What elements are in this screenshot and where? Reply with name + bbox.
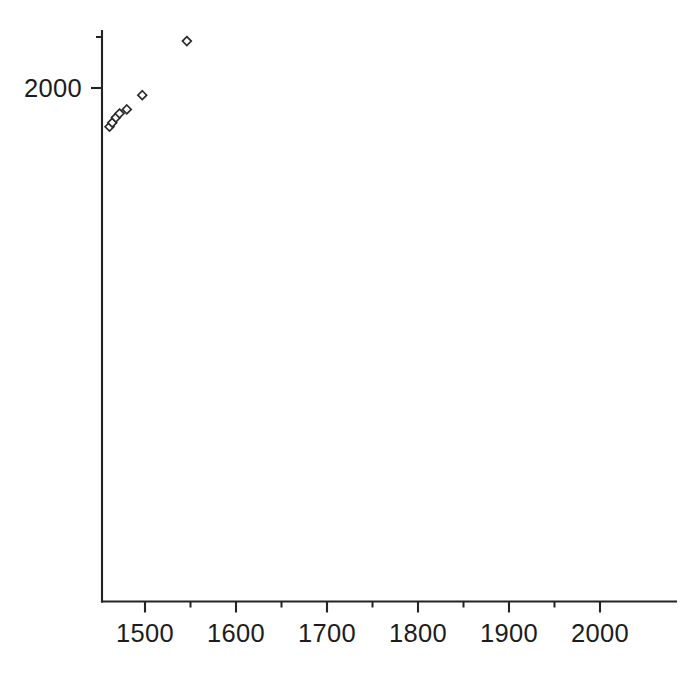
x-tick-label: 1800 (389, 619, 447, 647)
scatter-plot-figure: 150016001700180019002000 150016001700180… (0, 0, 685, 681)
x-tick-label: 1900 (480, 619, 538, 647)
y-tick-label: 2000 (24, 74, 82, 102)
x-tick-label: 1500 (116, 619, 174, 647)
x-tick-label: 1600 (207, 619, 265, 647)
plot-canvas: 150016001700180019002000 150016001700180… (0, 0, 685, 681)
x-tick-label: 2000 (571, 619, 629, 647)
x-tick-label: 1700 (298, 619, 356, 647)
